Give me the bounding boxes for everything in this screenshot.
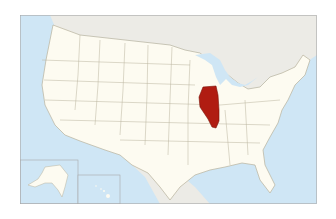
- hawaii-inset: [78, 175, 120, 204]
- us-locator-map: [20, 15, 317, 204]
